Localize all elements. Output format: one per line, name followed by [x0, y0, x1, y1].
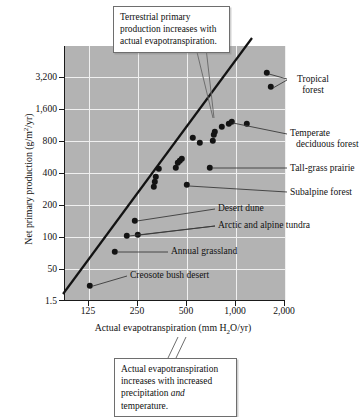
y-tick-mark: [59, 77, 64, 78]
callout-bottom-line1: Actual evapotranspiration: [121, 363, 231, 375]
y-axis-title-text: Net primary production (g/m: [23, 131, 34, 244]
y-tick-mark: [59, 205, 64, 206]
y-tick-mark: [59, 237, 64, 238]
y-tick-mark: [59, 300, 64, 301]
x-tick-label: 2,000: [273, 305, 295, 316]
y-tick-label: 800: [43, 136, 57, 146]
y-axis-title: Net primary production (g/m2/yr): [22, 89, 34, 269]
callout-bottom-line3-b: temperature.: [121, 401, 168, 411]
callout-bottom-line3-a: precipitation: [121, 388, 171, 398]
label-temperate-deciduous-forest: Temperate deciduous forest: [290, 128, 346, 151]
callout-top: Terrestrial primary production increases…: [113, 6, 230, 53]
x-tick-label: 1,000: [224, 305, 246, 316]
callout-bottom-line2: increases with increased: [121, 375, 231, 387]
x-axis-title: Actual evapotranspiration (mm H2O/yr): [0, 322, 346, 336]
label-tropical-forest-line2: forest: [290, 85, 336, 96]
y-tick-label: 200: [43, 200, 57, 210]
label-subalpine-forest: Subalpine forest: [290, 187, 352, 198]
y-tick-mark: [59, 109, 64, 110]
y-axis-title-suffix: /yr): [23, 114, 34, 128]
y-tick-mark: [59, 173, 64, 174]
y-tick-label: 3,200: [35, 72, 57, 82]
label-arctic-alpine-tundra: Arctic and alpine tundra: [218, 220, 310, 231]
leader-lines-inner: [65, 46, 286, 301]
y-tick-label: 100: [43, 232, 57, 242]
x-tick-label: 125: [81, 305, 95, 316]
label-tall-grass-prairie: Tall-grass prairie: [290, 163, 355, 174]
y-axis-title-exponent: 2: [22, 128, 30, 132]
label-tropical-forest-line1: Tropical: [290, 74, 336, 85]
y-tick-mark: [59, 141, 64, 142]
y-tick-label: 1,600: [35, 104, 57, 114]
label-annual-grassland: Annual grassland: [171, 246, 237, 257]
x-tick-label: 500: [179, 305, 193, 316]
label-temperate-line1: Temperate: [290, 128, 346, 139]
label-tropical-forest: Tropical forest: [290, 74, 336, 97]
label-temperate-line2: deciduous forest: [296, 139, 346, 150]
plot-area: [64, 46, 285, 301]
label-desert-dune: Desert dune: [218, 203, 264, 214]
y-tick-label: 1.5: [45, 296, 57, 306]
callout-top-line3: actual evapotranspiration.: [120, 35, 224, 47]
callout-bottom-emphasis: and: [171, 388, 185, 398]
callout-top-line1: Terrestrial primary: [120, 11, 224, 23]
callout-top-line2: production increases with: [120, 23, 224, 35]
y-tick-label: 400: [43, 168, 57, 178]
x-axis-title-suffix: O/yr): [230, 322, 251, 333]
x-tick-label: 250: [130, 305, 144, 316]
callout-bottom-line3: precipitation and temperature.: [121, 387, 231, 411]
x-axis-title-text: Actual evapotranspiration (mm H: [95, 322, 227, 333]
label-creosote-bush-desert: Creosote bush desert: [130, 270, 209, 281]
y-tick-mark: [59, 269, 64, 270]
callout-bottom: Actual evapotranspiration increases with…: [114, 358, 237, 417]
y-tick-label: 50: [47, 264, 57, 274]
